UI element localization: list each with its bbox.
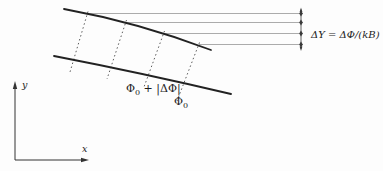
flux-label-upper-base: Φ (126, 82, 135, 95)
y-axis-label: y (21, 79, 28, 90)
dimension-tick-3 (299, 31, 303, 37)
flux-diagram: ΔY = ΔΦ/(kB) Φ0 + |ΔΦ| Φ0 y x (0, 0, 383, 171)
dimension-tick-2 (299, 20, 303, 26)
x-axis-arrowhead-icon (81, 158, 89, 162)
delta-y-equation-label: ΔY = ΔΦ/(kB) (310, 29, 380, 40)
y-axis-arrowhead-icon (13, 81, 17, 89)
flux-label-lower: Φ0 (174, 95, 188, 110)
x-axis-label: x (82, 143, 88, 154)
upper-flux-curve (64, 9, 211, 50)
coordinate-axes (13, 81, 89, 162)
flux-label-lower-subscript: 0 (183, 101, 188, 110)
flux-label-upper: Φ0 + |ΔΦ| (126, 82, 181, 97)
dimension-tick-1 (299, 11, 303, 17)
flux-label-upper-rest: + |ΔΦ| (140, 82, 181, 96)
flux-label-lower-base: Φ (174, 95, 183, 108)
dimension-marker (299, 8, 303, 52)
diagram-canvas: ΔY = ΔΦ/(kB) Φ0 + |ΔΦ| Φ0 y x (0, 0, 383, 171)
